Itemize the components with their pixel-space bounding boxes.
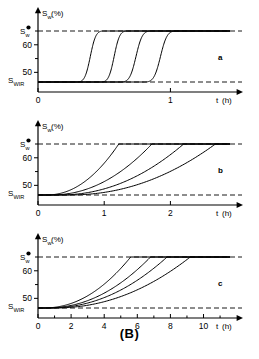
- x-tick-label: 2: [168, 208, 173, 218]
- curve-3: [38, 144, 230, 195]
- svg-text:w: w: [25, 258, 31, 264]
- y-axis-arrow: [35, 7, 41, 13]
- svg-text:(h): (h): [222, 96, 232, 105]
- x-axis-arrow: [237, 89, 243, 95]
- y-tick-label: 60: [23, 266, 33, 276]
- y-tick-label: 60: [23, 40, 33, 50]
- svg-text:WIR: WIR: [14, 194, 25, 200]
- x-tick-label: 0: [36, 208, 41, 218]
- y-axis-title: Sw(%): [42, 235, 64, 246]
- panel-letter-b: b: [218, 166, 223, 175]
- svg-text:w: w: [25, 32, 31, 38]
- svg-text:WIR: WIR: [14, 81, 25, 87]
- x-tick-label: 0: [36, 95, 41, 105]
- panel-a-plot: 506001Sw(%)SwSWIRt(h)a: [0, 0, 259, 110]
- curve-4: [38, 144, 230, 195]
- y-tick-label: 50: [23, 180, 33, 190]
- panel-b-plot: 5060012Sw(%)SwSWIRt(h)b: [0, 113, 259, 223]
- y-axis-arrow: [35, 233, 41, 239]
- curve-3: [38, 257, 230, 308]
- y-tick-label: 50: [23, 67, 33, 77]
- panel-letter-a: a: [218, 53, 223, 62]
- x-tick-label: 1: [102, 208, 107, 218]
- panel-letter-c: c: [218, 279, 223, 288]
- label-swir: SWIR: [8, 189, 24, 200]
- label-swir: SWIR: [8, 76, 24, 87]
- footer-text-strip: [0, 350, 259, 359]
- label-sw-star: Sw: [20, 25, 31, 37]
- x-axis-arrow: [237, 202, 243, 208]
- svg-text:w: w: [25, 145, 31, 151]
- svg-text:t: t: [216, 209, 219, 218]
- y-axis-title: Sw(%): [42, 122, 64, 133]
- label-sw-star: Sw: [20, 138, 31, 150]
- panel-b: 5060012Sw(%)SwSWIRt(h)b: [0, 113, 259, 223]
- panel-c-plot: 50600246810Sw(%)SwSWIRt(h)c: [0, 226, 259, 336]
- svg-text:(%): (%): [51, 235, 64, 244]
- x-axis-title: t(h): [216, 209, 232, 218]
- svg-text:(h): (h): [222, 209, 232, 218]
- y-axis-title: Sw(%): [42, 9, 64, 20]
- y-tick-label: 50: [23, 293, 33, 303]
- y-axis-arrow: [35, 120, 41, 126]
- x-tick-label: 1: [168, 95, 173, 105]
- panel-a: 506001Sw(%)SwSWIRt(h)a: [0, 0, 259, 110]
- curve-2: [38, 31, 230, 82]
- panel-c: 50600246810Sw(%)SwSWIRt(h)c: [0, 226, 259, 336]
- svg-text:t: t: [216, 96, 219, 105]
- x-axis-title: t(h): [216, 96, 232, 105]
- curve-1: [38, 144, 230, 195]
- x-axis-arrow: [237, 315, 243, 321]
- curve-2: [38, 144, 230, 195]
- curve-4: [38, 31, 230, 82]
- label-swir: SWIR: [8, 302, 24, 313]
- curve-3: [38, 31, 230, 82]
- figure-caption: (B): [0, 326, 259, 341]
- svg-text:(%): (%): [51, 122, 64, 131]
- svg-text:WIR: WIR: [14, 307, 25, 313]
- svg-text:(%): (%): [51, 9, 64, 18]
- figure-container: 506001Sw(%)SwSWIRt(h)a 5060012Sw(%)SwSWI…: [0, 0, 259, 359]
- curve-1: [38, 31, 230, 82]
- y-tick-label: 60: [23, 153, 33, 163]
- label-sw-star: Sw: [20, 251, 31, 263]
